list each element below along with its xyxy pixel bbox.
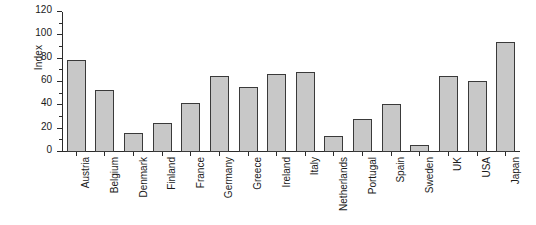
x-tick: [505, 152, 506, 156]
x-label-slot: USA: [463, 157, 492, 223]
x-label-slot: Ireland: [262, 157, 291, 223]
x-tick-slot: [320, 152, 349, 156]
bar-slot: [62, 12, 91, 152]
bar-slot: [148, 12, 177, 152]
bar-slot: [119, 12, 148, 152]
x-label-slot: Austria: [62, 157, 91, 223]
x-label-slot: Germany: [205, 157, 234, 223]
bar: [95, 90, 114, 152]
bar-slot: [406, 12, 435, 152]
bar-slot: [320, 12, 349, 152]
x-tick: [162, 152, 163, 156]
y-tick-label: 80: [41, 51, 52, 62]
x-tick: [333, 152, 334, 156]
bars-layer: [62, 12, 520, 152]
x-label-slot: Portugal: [348, 157, 377, 223]
x-tick-slot: [434, 152, 463, 156]
bar: [496, 42, 515, 152]
x-label-slot: Belgium: [91, 157, 120, 223]
bar: [210, 76, 229, 152]
x-tick-slot: [119, 152, 148, 156]
bar: [324, 136, 343, 152]
y-tick-label: 60: [41, 74, 52, 85]
x-tick: [248, 152, 249, 156]
bar: [382, 104, 401, 152]
x-tick: [477, 152, 478, 156]
x-tick-slot: [148, 152, 177, 156]
x-tick-slot: [205, 152, 234, 156]
x-tick-label: Japan: [510, 157, 521, 184]
x-label-slot: Finland: [148, 157, 177, 223]
x-tick: [419, 152, 420, 156]
bar: [67, 60, 86, 152]
bar-slot: [262, 12, 291, 152]
bar-slot: [177, 12, 206, 152]
x-label-slot: Denmark: [119, 157, 148, 223]
bar: [353, 119, 372, 152]
y-tick-label: 100: [35, 27, 52, 38]
x-tick-slot: [262, 152, 291, 156]
x-label-slot: Greece: [234, 157, 263, 223]
x-tick-slot: [491, 152, 520, 156]
plot-area: 020406080100120: [62, 12, 520, 152]
x-tick-slot: [377, 152, 406, 156]
bar-slot: [205, 12, 234, 152]
bar: [410, 145, 429, 152]
bar: [124, 133, 143, 152]
x-label-slot: Japan: [491, 157, 520, 223]
x-tick: [219, 152, 220, 156]
x-tick-slot: [348, 152, 377, 156]
bar: [296, 72, 315, 153]
x-label-slot: Spain: [377, 157, 406, 223]
bar-slot: [491, 12, 520, 152]
x-tick: [133, 152, 134, 156]
x-tick-slot: [406, 152, 435, 156]
x-label-slot: France: [177, 157, 206, 223]
bar-slot: [348, 12, 377, 152]
x-tick: [305, 152, 306, 156]
x-axis-labels: AustriaBelgiumDenmarkFinlandFranceGerman…: [62, 157, 520, 223]
x-label-slot: UK: [434, 157, 463, 223]
x-tick: [391, 152, 392, 156]
x-label-slot: Sweden: [406, 157, 435, 223]
bar: [439, 76, 458, 152]
bar-slot: [234, 12, 263, 152]
x-tick-slot: [234, 152, 263, 156]
x-tick-slot: [62, 152, 91, 156]
bar-chart-figure: Index 020406080100120 AustriaBelgiumDenm…: [0, 0, 536, 225]
bar-slot: [291, 12, 320, 152]
x-tick: [190, 152, 191, 156]
bar: [153, 123, 172, 152]
x-tick: [276, 152, 277, 156]
x-tick-slot: [91, 152, 120, 156]
bar: [181, 103, 200, 152]
bar: [468, 81, 487, 152]
x-tick: [448, 152, 449, 156]
x-tick-slot: [463, 152, 492, 156]
y-tick-label: 20: [41, 121, 52, 132]
bar-slot: [434, 12, 463, 152]
bar-slot: [463, 12, 492, 152]
x-label-slot: Netherlands: [320, 157, 349, 223]
x-tick-slot: [177, 152, 206, 156]
x-label-slot: Italy: [291, 157, 320, 223]
bar-slot: [91, 12, 120, 152]
y-tick-label: 120: [35, 4, 52, 15]
x-tick-slot: [291, 152, 320, 156]
x-tick: [76, 152, 77, 156]
bar-slot: [377, 12, 406, 152]
y-tick-label: 40: [41, 97, 52, 108]
bar: [239, 87, 258, 152]
x-tick: [104, 152, 105, 156]
x-tick: [362, 152, 363, 156]
x-axis-ticks: [62, 152, 520, 156]
y-tick-label: 0: [46, 144, 52, 155]
bar: [267, 74, 286, 152]
